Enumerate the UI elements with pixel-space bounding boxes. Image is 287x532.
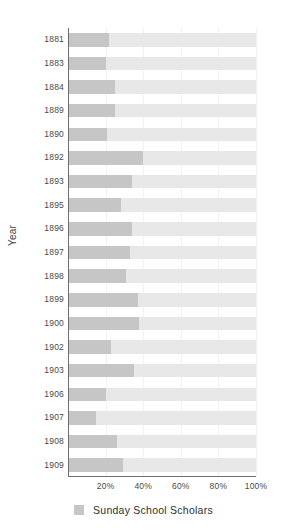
y-tick-1907: 1907: [26, 412, 64, 422]
bar-1896: [68, 222, 132, 236]
y-tick-1897: 1897: [26, 247, 64, 257]
y-tick-1881: 1881: [26, 34, 64, 44]
bar-1893: [68, 175, 132, 189]
y-axis-tick-labels: 1881188318841889189018921893189518961897…: [26, 28, 64, 477]
bar-row: [68, 411, 256, 425]
bar-1909: [68, 458, 123, 472]
bar-1881: [68, 33, 109, 47]
y-tick-1889: 1889: [26, 105, 64, 115]
bar-row: [68, 435, 256, 449]
x-tick-40: 40%: [134, 481, 152, 491]
bar-1899: [68, 293, 138, 307]
bar-1897: [68, 246, 130, 260]
y-tick-1906: 1906: [26, 389, 64, 399]
bar-1895: [68, 198, 121, 212]
bar-rows: [68, 28, 256, 477]
x-tick-80: 80%: [210, 481, 228, 491]
y-tick-1898: 1898: [26, 271, 64, 281]
y-axis-title-text: Year: [7, 224, 18, 245]
y-tick-1899: 1899: [26, 294, 64, 304]
bar-1908: [68, 435, 117, 449]
bar-row: [68, 33, 256, 47]
bar-1900: [68, 317, 139, 331]
y-tick-1884: 1884: [26, 82, 64, 92]
x-tick-100: 100%: [245, 481, 268, 491]
y-tick-1892: 1892: [26, 152, 64, 162]
y-tick-1895: 1895: [26, 200, 64, 210]
bar-1907: [68, 411, 96, 425]
bar-1892: [68, 151, 143, 165]
legend-swatch-sunday-school-scholars: [74, 505, 84, 515]
bar-track: [68, 411, 256, 425]
bar-row: [68, 222, 256, 236]
bar-1902: [68, 340, 111, 354]
y-tick-1893: 1893: [26, 176, 64, 186]
bar-1883: [68, 57, 106, 71]
y-tick-1909: 1909: [26, 460, 64, 470]
bar-1889: [68, 104, 115, 118]
y-axis-line: [68, 28, 69, 477]
bar-row: [68, 458, 256, 472]
plot-area: [68, 28, 256, 477]
bar-row: [68, 57, 256, 71]
bar-1890: [68, 128, 107, 142]
bar-row: [68, 128, 256, 142]
legend-label-sunday-school-scholars: Sunday School Scholars: [93, 504, 213, 516]
bar-row: [68, 388, 256, 402]
chart-legend: Sunday School Scholars: [0, 500, 287, 520]
bar-1906: [68, 388, 106, 402]
bar-row: [68, 151, 256, 165]
bar-chart: Year 18811883188418891890189218931895189…: [0, 0, 287, 532]
bar-row: [68, 104, 256, 118]
bar-row: [68, 293, 256, 307]
bar-row: [68, 317, 256, 331]
bar-row: [68, 175, 256, 189]
y-tick-1883: 1883: [26, 58, 64, 68]
x-tick-20: 20%: [97, 481, 115, 491]
bar-1898: [68, 269, 126, 283]
x-axis-line: [68, 476, 256, 477]
y-tick-1903: 1903: [26, 365, 64, 375]
bar-row: [68, 80, 256, 94]
y-tick-1900: 1900: [26, 318, 64, 328]
y-tick-1896: 1896: [26, 223, 64, 233]
bar-row: [68, 269, 256, 283]
y-tick-1890: 1890: [26, 129, 64, 139]
bar-row: [68, 340, 256, 354]
x-axis-tick-labels: 20%40%60%80%100%: [68, 481, 256, 495]
bar-1884: [68, 80, 115, 94]
y-tick-1908: 1908: [26, 436, 64, 446]
bar-row: [68, 198, 256, 212]
y-axis-title: Year: [0, 0, 26, 470]
bar-1903: [68, 364, 134, 378]
bar-row: [68, 364, 256, 378]
gridline-100: [256, 28, 257, 477]
x-tick-60: 60%: [172, 481, 190, 491]
bar-row: [68, 246, 256, 260]
y-tick-1902: 1902: [26, 342, 64, 352]
